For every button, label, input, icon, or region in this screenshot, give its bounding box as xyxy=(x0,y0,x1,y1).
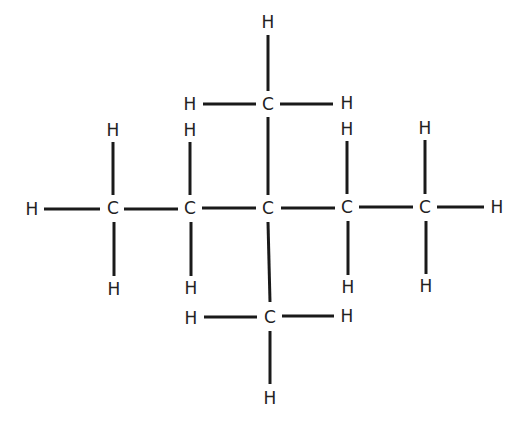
carbon-atom-c1: C xyxy=(107,200,119,217)
hydrogen-atom-h3: H xyxy=(108,281,121,298)
hydrogen-atom-h9: H xyxy=(420,278,433,295)
hydrogen-atom-h15: H xyxy=(341,308,354,325)
hydrogen-atom-h10: H xyxy=(491,199,504,216)
hydrogen-atom-h14: H xyxy=(185,310,198,327)
hydrogen-atom-h13: H xyxy=(262,14,275,31)
carbon-atom-c6: C xyxy=(262,96,274,113)
carbon-atom-c3: C xyxy=(262,200,274,217)
hydrogen-atom-h16: H xyxy=(264,390,277,407)
structural-formula-diagram: CCCCCCCHHHHHHHHHHHHHHHH xyxy=(0,0,523,427)
carbon-atom-c2: C xyxy=(184,200,196,217)
hydrogen-atom-h4: H xyxy=(184,122,197,139)
hydrogen-atom-h1: H xyxy=(26,201,39,218)
hydrogen-atom-h2: H xyxy=(107,122,120,139)
hydrogen-atom-h7: H xyxy=(342,279,355,296)
hydrogen-atom-h5: H xyxy=(185,280,198,297)
hydrogen-atom-h11: H xyxy=(184,96,197,113)
hydrogen-atom-h8: H xyxy=(419,120,432,137)
carbon-atom-c5: C xyxy=(419,199,431,216)
bond-c3-c7 xyxy=(268,222,270,302)
carbon-atom-c4: C xyxy=(341,199,353,216)
hydrogen-atom-h6: H xyxy=(341,121,354,138)
carbon-atom-c7: C xyxy=(264,309,276,326)
hydrogen-atom-h12: H xyxy=(341,95,354,112)
